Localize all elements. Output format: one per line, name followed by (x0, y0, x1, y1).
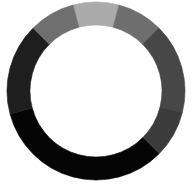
spinner-segment-5 (7, 28, 49, 114)
spinner-segment-2 (143, 28, 185, 112)
spinner-segment-4 (10, 108, 159, 180)
spinner-segment-0 (73, 2, 119, 27)
loading-spinner-icon (0, 0, 195, 193)
loading-spinner (0, 0, 195, 193)
